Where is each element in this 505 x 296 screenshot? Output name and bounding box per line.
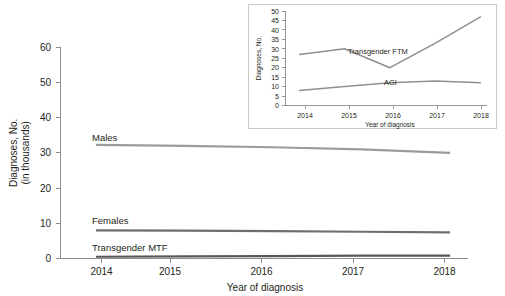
inset-ytick-10: 10 (271, 83, 279, 90)
main-ytick-30: 30 (40, 147, 52, 158)
inset-ytick-45: 45 (271, 17, 279, 24)
main-y-ticks (56, 47, 61, 258)
main-x-axis-title: Year of diagnosis (227, 282, 303, 293)
inset-ytick-30: 30 (271, 46, 279, 53)
inset-ytick-25: 25 (271, 55, 279, 62)
inset-xtick-2017: 2017 (429, 112, 445, 119)
main-y-axis-title-line1: Diagnoses, No. (8, 119, 19, 187)
series-label-agi: AGI (384, 78, 397, 87)
main-xtick-2014: 2014 (90, 266, 113, 277)
inset-ytick-40: 40 (271, 27, 279, 34)
inset-xtick-2016: 2016 (385, 112, 401, 119)
main-ytick-10: 10 (40, 218, 52, 229)
main-ytick-20: 20 (40, 183, 52, 194)
main-xtick-2017: 2017 (342, 266, 365, 277)
series-line-transgender-mtf (96, 256, 450, 257)
main-xtick-2018: 2018 (433, 266, 456, 277)
series-line-males (96, 145, 450, 153)
series-label-transgender-mtf: Transgender MTF (92, 242, 168, 253)
inset-ytick-5: 5 (275, 93, 279, 100)
main-y-axis-title-line2: (in thousands) (20, 121, 31, 184)
inset-chart: 0 5 10 15 20 25 30 35 40 45 50 Diagnoses… (249, 5, 497, 130)
series-line-females (96, 230, 450, 232)
main-xtick-2016: 2016 (250, 266, 273, 277)
inset-xtick-2015: 2015 (341, 112, 357, 119)
inset-xtick-2014: 2014 (297, 112, 313, 119)
series-label-transgender-ftm: Transgender FTM (348, 47, 408, 56)
inset-y-axis-title: Diagnoses, No. (255, 36, 263, 81)
inset-ytick-15: 15 (271, 74, 279, 81)
inset-x-axis-title: Year of diagnosis (365, 121, 415, 129)
chart-figure: 0 10 20 30 40 50 60 Diagnoses, No. (in t… (0, 0, 505, 296)
inset-ytick-20: 20 (271, 64, 279, 71)
inset-ytick-35: 35 (271, 36, 279, 43)
main-x-ticks (102, 259, 445, 264)
figure-container: 0 10 20 30 40 50 60 Diagnoses, No. (in t… (0, 0, 505, 296)
inset-xtick-2018: 2018 (473, 112, 489, 119)
series-label-males: Males (92, 132, 118, 143)
inset-ytick-0: 0 (275, 102, 279, 109)
inset-ytick-50: 50 (271, 8, 279, 15)
main-xtick-2015: 2015 (159, 266, 182, 277)
main-ytick-40: 40 (40, 112, 52, 123)
series-label-females: Females (92, 215, 129, 226)
main-ytick-0: 0 (45, 253, 51, 264)
main-y-axis-title: Diagnoses, No. (in thousands) (8, 119, 31, 187)
main-ytick-60: 60 (40, 42, 52, 53)
main-ytick-50: 50 (40, 77, 52, 88)
